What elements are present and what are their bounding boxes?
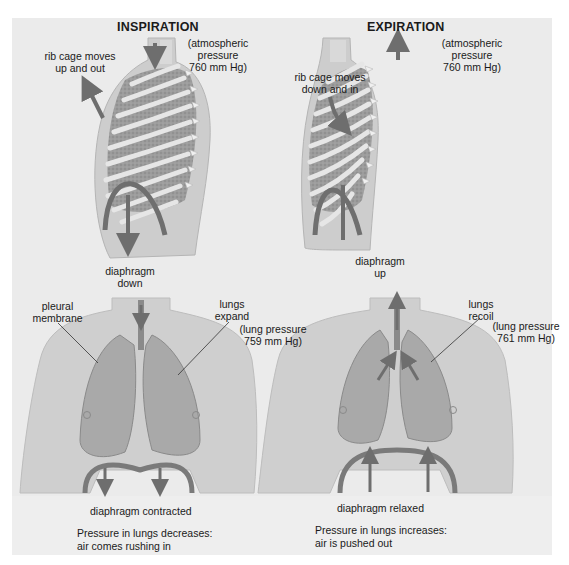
diaphragm-relaxed-caption: diaphragm relaxed: [337, 502, 424, 515]
expiration-title: EXPIRATION: [367, 21, 444, 33]
expiration-atmospheric-label: (atmospheric pressure 760 mm Hg): [437, 37, 507, 73]
expiration-side-view: [302, 38, 398, 250]
expiration-rib-cage-label: rib cage moves down and in: [290, 71, 370, 95]
breathing-illustration: [0, 0, 569, 565]
pleural-membrane-label: pleural membrane: [30, 300, 85, 324]
inspiration-summary: Pressure in lungs decreases: air comes r…: [77, 527, 212, 553]
inspiration-atmospheric-label: (atmospheric pressure 760 mm Hg): [183, 37, 253, 73]
lungs-expand-label: lungs expand: [212, 298, 252, 322]
inspiration-lung-pressure-label: (lung pressure 759 mm Hg): [234, 323, 312, 347]
lungs-recoil-label: lungs recoil: [461, 298, 501, 322]
inspiration-front-view: [20, 298, 257, 493]
inspiration-rib-cage-label: rib cage moves up and out: [40, 50, 120, 74]
expiration-diaphragm-label: diaphragm up: [350, 255, 410, 279]
expiration-lung-pressure-label: (lung pressure 761 mm Hg): [487, 320, 565, 344]
expiration-summary: Pressure in lungs increases: air is push…: [315, 524, 447, 550]
inspiration-title: INSPIRATION: [117, 21, 199, 33]
diaphragm-contracted-caption: diaphragm contracted: [90, 505, 192, 518]
inspiration-diaphragm-label: diaphragm down: [100, 265, 160, 289]
